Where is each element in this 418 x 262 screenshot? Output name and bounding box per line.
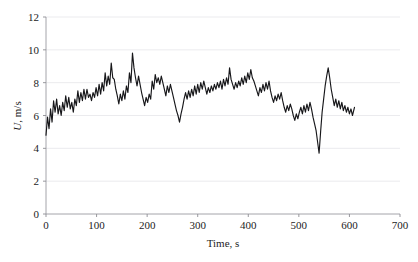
svg-text:U, m/s: U, m/s (11, 101, 23, 130)
x-tick-labels-group: 0100200300400500600700 (43, 219, 409, 231)
y-tick-label: 8 (34, 77, 40, 89)
x-tick-label: 400 (240, 219, 257, 231)
y-tick-label: 6 (34, 110, 40, 122)
x-tick-label: 100 (88, 219, 105, 231)
x-axis-title: Time, s (207, 237, 240, 249)
data-series-line (46, 53, 354, 153)
y-tick-label: 4 (34, 142, 40, 154)
y-tick-label: 0 (34, 208, 40, 220)
line-chart: 0100200300400500600700 024681012 Time, s… (0, 0, 418, 262)
y-tick-labels-group: 024681012 (28, 11, 40, 220)
x-tick-label: 200 (139, 219, 156, 231)
y-axis-title: U, m/s (11, 101, 23, 130)
y-axis-title-units: , m/s (11, 101, 23, 122)
x-tick-label: 300 (189, 219, 206, 231)
x-tick-label: 700 (392, 219, 409, 231)
x-tick-label: 0 (43, 219, 49, 231)
gridlines-group (46, 17, 400, 181)
x-tick-label: 600 (341, 219, 358, 231)
data-series-group (46, 53, 354, 153)
y-tick-label: 12 (28, 11, 39, 23)
x-tick-label: 500 (291, 219, 308, 231)
y-tick-label: 10 (28, 44, 40, 56)
y-tick-label: 2 (34, 175, 40, 187)
chart-figure: 0100200300400500600700 024681012 Time, s… (0, 0, 418, 262)
